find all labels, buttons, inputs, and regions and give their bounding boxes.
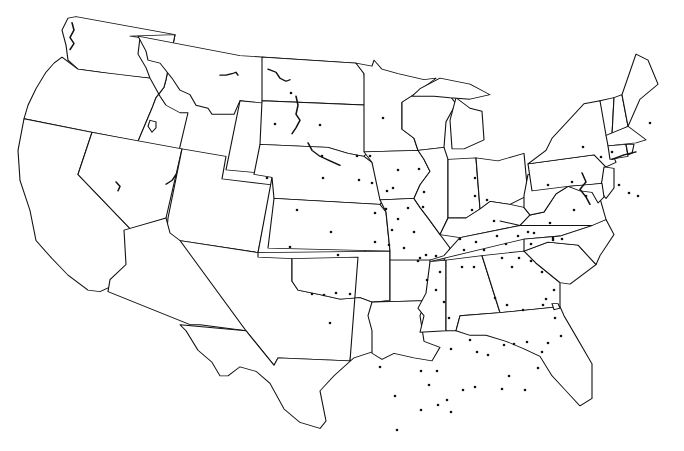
location-dot xyxy=(518,257,521,260)
location-dot xyxy=(474,386,477,389)
location-dot xyxy=(435,289,438,292)
location-dot xyxy=(487,354,490,357)
location-dot xyxy=(335,292,338,295)
location-dot xyxy=(459,238,462,241)
location-dot xyxy=(571,181,574,184)
location-dot xyxy=(527,231,530,234)
location-dot xyxy=(397,218,400,221)
location-dot xyxy=(549,222,552,225)
location-dot xyxy=(547,342,550,345)
location-dot xyxy=(290,92,293,95)
location-dot xyxy=(511,266,514,269)
location-dot xyxy=(476,351,479,354)
location-dot xyxy=(537,367,540,370)
location-dot xyxy=(422,206,425,209)
location-dot xyxy=(356,155,359,158)
location-dot xyxy=(418,168,421,171)
location-dot xyxy=(561,238,564,241)
location-dot xyxy=(266,177,269,180)
location-dot xyxy=(382,117,385,120)
location-dot xyxy=(391,229,394,232)
location-dot xyxy=(437,404,440,407)
location-dot xyxy=(628,192,631,195)
us-map xyxy=(0,0,684,451)
location-dot xyxy=(611,151,614,154)
state-mi xyxy=(450,98,484,149)
location-dot xyxy=(436,370,439,373)
location-dot xyxy=(407,207,410,210)
location-dot xyxy=(296,209,299,212)
state-fl xyxy=(456,307,592,406)
location-dot xyxy=(423,191,426,194)
location-dot xyxy=(374,241,377,244)
location-dot xyxy=(582,146,585,149)
location-dot xyxy=(533,232,536,235)
location-dot xyxy=(542,304,545,307)
location-dot xyxy=(371,182,374,185)
us-map-svg xyxy=(0,0,684,451)
location-dot xyxy=(386,190,389,193)
location-dot xyxy=(545,298,548,301)
location-dot xyxy=(396,429,399,432)
state-boundaries xyxy=(18,17,658,429)
state-oh xyxy=(476,153,528,209)
location-dot xyxy=(473,266,476,269)
location-dot xyxy=(486,199,489,202)
location-dot xyxy=(374,212,377,215)
location-dot xyxy=(547,184,550,187)
state-me xyxy=(622,54,658,126)
location-dot xyxy=(417,260,420,263)
location-dot xyxy=(420,409,423,412)
location-dot xyxy=(493,220,496,223)
location-dot xyxy=(322,177,325,180)
location-dot xyxy=(585,195,588,198)
location-dot xyxy=(435,255,438,258)
location-dot xyxy=(413,231,416,234)
location-dot xyxy=(463,249,466,252)
location-dot xyxy=(323,294,326,297)
location-dot xyxy=(560,335,563,338)
location-dot xyxy=(419,257,422,260)
location-dot xyxy=(330,231,333,234)
location-dot xyxy=(474,195,477,198)
location-dot xyxy=(379,366,382,369)
location-dot xyxy=(469,339,472,342)
location-dot xyxy=(337,254,340,257)
location-dot xyxy=(618,184,621,187)
location-dot xyxy=(461,266,464,269)
location-dot xyxy=(392,187,395,190)
location-dot xyxy=(274,123,277,126)
location-dot xyxy=(426,279,429,282)
location-dot xyxy=(428,384,431,387)
location-dot xyxy=(506,304,509,307)
location-dot xyxy=(474,177,477,180)
location-dot xyxy=(475,241,478,244)
location-dot xyxy=(450,411,453,414)
location-dot xyxy=(394,395,397,398)
location-dot xyxy=(526,341,529,344)
location-dot xyxy=(503,344,506,347)
location-dot xyxy=(385,208,388,211)
location-dot xyxy=(369,155,372,158)
location-dot xyxy=(289,246,292,249)
location-dot xyxy=(483,249,486,252)
location-dot xyxy=(448,317,451,320)
state-ks xyxy=(268,198,390,251)
location-dot xyxy=(462,389,465,392)
location-dot xyxy=(471,209,474,212)
location-dot xyxy=(446,399,449,402)
location-dot xyxy=(541,351,544,354)
state-nd xyxy=(262,57,370,105)
location-dot xyxy=(321,155,324,158)
location-dot xyxy=(329,322,332,325)
location-dot xyxy=(508,375,511,378)
location-dot xyxy=(649,122,652,125)
location-dot xyxy=(443,301,446,304)
location-dot xyxy=(501,257,504,260)
location-dot xyxy=(494,297,497,300)
location-dot xyxy=(637,195,640,198)
location-dot xyxy=(522,309,525,312)
location-dot xyxy=(530,243,533,246)
location-dot xyxy=(496,235,499,238)
location-dot xyxy=(524,389,527,392)
